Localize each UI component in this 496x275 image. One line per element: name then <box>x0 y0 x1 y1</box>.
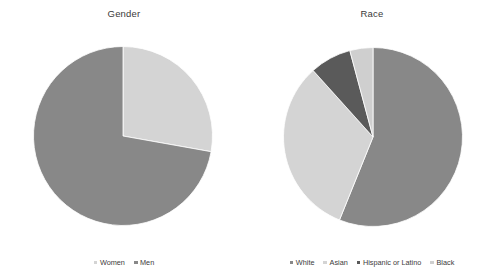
race-chart-panel: Race WhiteAsianHispanic or LatinoBlack <box>248 0 496 275</box>
legend-swatch-icon <box>430 261 434 265</box>
gender-pie-svg <box>33 46 213 226</box>
gender-chart-title: Gender <box>0 8 248 20</box>
legend-item-label: Women <box>100 258 125 267</box>
legend-item-label: Hispanic or Latino <box>363 258 421 267</box>
race-chart-title: Race <box>248 8 496 20</box>
legend-swatch-icon <box>290 261 294 265</box>
race-pie-svg <box>283 47 463 227</box>
legend-item[interactable]: Men <box>134 258 154 267</box>
legend-swatch-icon <box>134 261 138 265</box>
gender-legend: WomenMen <box>0 258 248 267</box>
legend-item[interactable]: Asian <box>323 258 347 267</box>
pie-chart-figure: Gender WomenMen Race WhiteAsianHispanic … <box>0 0 496 275</box>
race-pie <box>283 47 463 227</box>
legend-item-label: Men <box>140 258 154 267</box>
legend-swatch-icon <box>323 261 327 265</box>
gender-chart-panel: Gender WomenMen <box>0 0 248 275</box>
gender-pie <box>33 46 213 226</box>
legend-item-label: Black <box>436 258 454 267</box>
legend-item[interactable]: Women <box>94 258 125 267</box>
legend-item-label: Asian <box>330 258 348 267</box>
legend-item[interactable]: Hispanic or Latino <box>357 258 422 267</box>
legend-swatch-icon <box>94 261 98 265</box>
legend-item[interactable]: White <box>290 258 315 267</box>
legend-item-label: White <box>296 258 315 267</box>
race-legend: WhiteAsianHispanic or LatinoBlack <box>248 258 496 267</box>
pie-slice <box>123 47 213 152</box>
legend-swatch-icon <box>357 261 361 265</box>
legend-item[interactable]: Black <box>430 258 454 267</box>
